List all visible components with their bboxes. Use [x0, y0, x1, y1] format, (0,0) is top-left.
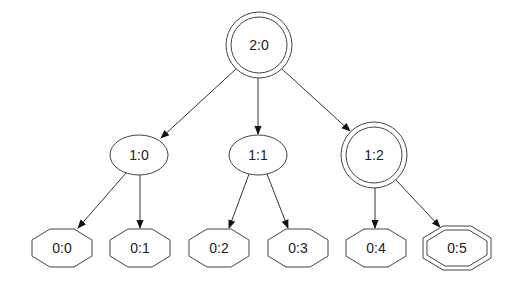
node-1-1[interactable]: 1:1	[229, 135, 287, 175]
node-label: 0:1	[130, 240, 150, 256]
node-0-4[interactable]: 0:4	[346, 229, 406, 267]
edge-2-0-to-1-0	[161, 69, 236, 138]
edge-1-0-to-0-0	[78, 173, 126, 228]
node-label: 1:2	[364, 147, 384, 163]
node-0-1[interactable]: 0:1	[110, 229, 170, 267]
node-label: 0:2	[209, 240, 229, 256]
edge-1-2-to-0-5	[396, 180, 440, 227]
node-label: 0:4	[366, 240, 386, 256]
node-1-2[interactable]: 1:2	[341, 122, 407, 188]
node-label: 0:0	[52, 240, 72, 256]
node-label: 0:5	[447, 240, 467, 256]
edge-1-1-to-0-3	[267, 174, 288, 228]
node-2-0[interactable]: 2:0	[226, 12, 292, 78]
edge-2-0-to-1-2	[282, 69, 350, 131]
node-0-5[interactable]: 0:5	[423, 226, 491, 270]
node-label: 0:3	[288, 240, 308, 256]
node-0-3[interactable]: 0:3	[268, 229, 328, 267]
edge-1-1-to-0-2	[229, 174, 249, 228]
node-label: 2:0	[249, 37, 269, 53]
node-label: 1:1	[248, 147, 268, 163]
node-1-0[interactable]: 1:0	[110, 135, 168, 175]
node-0-0[interactable]: 0:0	[32, 229, 92, 267]
node-0-2[interactable]: 0:2	[189, 229, 249, 267]
node-label: 1:0	[129, 147, 149, 163]
tree-diagram: 2:0 1:0 1:1 1:2 0:0 0:1 0:2 0:3 0:4	[0, 0, 521, 297]
